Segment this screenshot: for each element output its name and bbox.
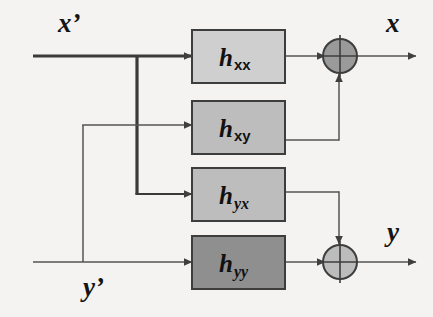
block-hyy-subscript: yy [232, 263, 249, 281]
block-hyy-label: h [219, 250, 233, 277]
output-label-y: y [384, 217, 400, 247]
block-hyx-subscript: yx [232, 195, 249, 213]
block-hyx[interactable]: h yx [192, 168, 285, 221]
input-label-y-prime: y’ [80, 272, 104, 302]
summer-x[interactable] [323, 35, 357, 77]
input-label-x-prime: x’ [57, 8, 81, 38]
block-hyy[interactable]: h yy [192, 236, 285, 289]
block-diagram: h xx h xy h yx h yy [0, 0, 433, 317]
block-hxx-label: h [219, 44, 233, 71]
block-hxx[interactable]: h xx [192, 30, 285, 83]
output-label-x: x [385, 8, 400, 38]
diagram-canvas: h xx h xy h yx h yy [0, 0, 433, 317]
wire-layer [33, 56, 416, 262]
block-hxx-subscript: xx [234, 56, 251, 73]
block-hxy[interactable]: h xy [192, 101, 285, 154]
summer-y[interactable] [323, 241, 357, 283]
block-hxy-label: h [219, 115, 233, 142]
block-hxy-subscript: xy [234, 127, 251, 144]
block-hyx-label: h [219, 182, 233, 209]
